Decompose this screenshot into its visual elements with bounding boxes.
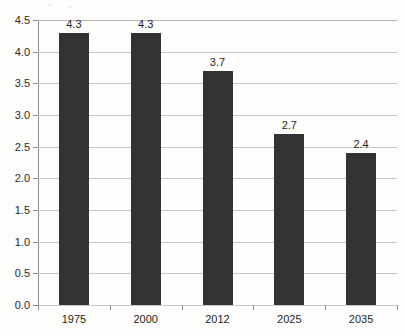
bar-value-label: 3.7	[198, 57, 238, 68]
x-axis-tick-label: 1975	[49, 313, 99, 325]
bar-value-label: 4.3	[54, 19, 94, 30]
bar	[203, 71, 233, 305]
bar-value-label: 4.3	[126, 19, 166, 30]
x-axis-tick-mark	[253, 305, 254, 310]
gridline-4.0	[38, 52, 397, 53]
y-axis-tick-label: 2.5	[0, 142, 30, 153]
y-axis-tick-label: 3.5	[0, 78, 30, 89]
x-axis-tick-mark	[397, 305, 398, 310]
x-axis-tick-label: 2012	[193, 313, 243, 325]
bar	[346, 153, 376, 305]
y-axis-tick-label: 3.0	[0, 110, 30, 121]
bar-chart-figure: 0.00.51.01.52.02.53.03.54.04.5 4.34.33.7…	[0, 0, 405, 336]
y-axis-tick-label: 1.5	[0, 205, 30, 216]
y-axis-tick-label: 2.0	[0, 173, 30, 184]
bar	[59, 33, 89, 305]
bar	[131, 33, 161, 305]
x-axis-tick-mark	[325, 305, 326, 310]
x-axis-tick-mark	[110, 305, 111, 310]
x-axis-tick-label: 2025	[264, 313, 314, 325]
y-axis-tick-label: 4.5	[0, 15, 30, 26]
x-axis-tick-mark	[182, 305, 183, 310]
x-axis-tick-label: 2000	[121, 313, 171, 325]
scan-artifact	[68, 6, 73, 8]
y-axis-tick-label: 0.0	[0, 300, 30, 311]
bar-value-label: 2.7	[269, 120, 309, 131]
y-axis-tick-label: 4.0	[0, 47, 30, 58]
gridline-0.0	[38, 305, 397, 306]
y-axis-tick-label: 1.0	[0, 237, 30, 248]
bar	[274, 134, 304, 305]
y-axis-tick-label: 0.5	[0, 268, 30, 279]
x-axis-tick-label: 2035	[336, 313, 386, 325]
scan-artifact	[48, 4, 51, 6]
bar-value-label: 2.4	[341, 139, 381, 150]
x-axis-tick-mark	[38, 305, 39, 310]
